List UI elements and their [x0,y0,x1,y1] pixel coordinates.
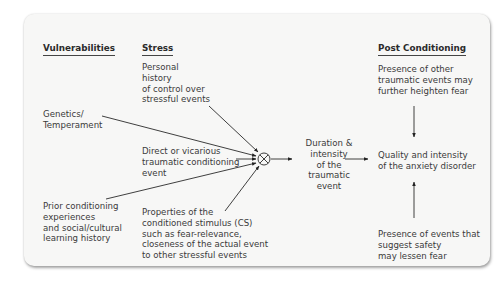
arrow-personal-history [209,106,258,152]
arrow-genetics [102,116,256,156]
arrow-prior-conditioning [106,163,256,199]
multiply-circle-icon [258,153,270,165]
arrow-cs-properties [225,166,259,211]
connector-lines [0,0,502,291]
